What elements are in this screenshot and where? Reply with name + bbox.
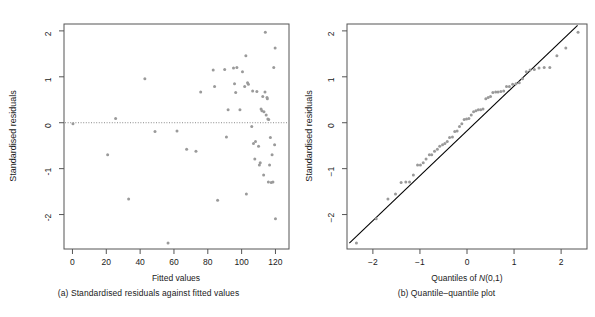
data-point <box>71 122 74 125</box>
y-tick-label: 2 <box>43 31 53 36</box>
data-point <box>254 140 257 143</box>
data-point <box>458 125 461 128</box>
data-point <box>251 90 254 93</box>
y-tick-label: 1 <box>43 77 53 82</box>
data-point <box>456 129 459 132</box>
data-point <box>247 83 250 86</box>
qq-reference-line <box>349 25 577 243</box>
data-point <box>497 90 500 93</box>
panel-b-caption: (b) Quantile–quantile plot <box>298 288 595 298</box>
data-point <box>233 82 236 85</box>
x-tick-label: −2 <box>368 257 378 267</box>
data-point <box>234 91 237 94</box>
data-point <box>386 197 389 200</box>
data-point <box>262 110 265 113</box>
data-point <box>543 66 546 69</box>
data-point <box>263 90 266 93</box>
data-point <box>154 130 157 133</box>
data-point <box>425 158 428 161</box>
data-point <box>502 90 505 93</box>
x-axis-title-prefix: Quantiles of <box>431 273 479 283</box>
data-point <box>264 31 267 34</box>
data-point <box>271 180 274 183</box>
data-point <box>467 117 470 120</box>
y-tick-label: -1 <box>43 168 53 176</box>
panel-a-caption: (a) Standardised residuals against fitte… <box>0 288 297 298</box>
data-point <box>482 107 485 110</box>
data-point <box>505 85 508 88</box>
data-point <box>443 142 446 145</box>
data-point <box>143 77 146 80</box>
data-point <box>419 163 422 166</box>
x-axis-ticks: −2−1012 <box>368 249 564 267</box>
data-point <box>446 140 449 143</box>
plot-frame <box>64 24 289 249</box>
data-point <box>272 66 275 69</box>
data-point <box>394 192 397 195</box>
data-point <box>422 161 425 164</box>
data-point <box>470 113 473 116</box>
data-point <box>555 54 558 57</box>
data-point <box>438 145 441 148</box>
data-point <box>499 90 502 93</box>
data-point <box>243 85 246 88</box>
data-point <box>212 68 215 71</box>
data-point <box>514 82 517 85</box>
data-point <box>185 148 188 151</box>
y-axis-ticks: 210-1-2 <box>43 31 64 221</box>
data-point <box>266 97 269 100</box>
data-point <box>127 197 130 200</box>
data-point <box>253 158 256 161</box>
x-axis-title: Fitted values <box>152 273 200 283</box>
x-tick-label: 2 <box>559 257 564 267</box>
scatter-points <box>71 31 277 245</box>
data-point <box>265 113 268 116</box>
data-point <box>489 95 492 98</box>
data-point <box>525 70 528 73</box>
scatter-points <box>355 31 580 245</box>
data-point <box>416 163 419 166</box>
data-point <box>511 83 514 86</box>
data-point <box>268 163 271 166</box>
data-point <box>114 117 117 120</box>
x-tick-label: 20 <box>102 257 112 267</box>
panel-b-quantile-quantile-plot: −2−1012 210−1−2 Quantiles of N(0,1) Stan… <box>298 0 595 317</box>
data-point <box>274 217 277 220</box>
y-tick-label: 0 <box>43 123 53 128</box>
data-point <box>521 77 524 80</box>
x-axis-title: Quantiles of N(0,1) <box>431 273 503 283</box>
data-point <box>460 122 463 125</box>
data-point <box>412 174 415 177</box>
figure-container: 020406080100120 210-1-2 Fitted values St… <box>0 0 595 317</box>
data-point <box>538 67 541 70</box>
data-point <box>408 180 411 183</box>
data-point <box>274 46 277 49</box>
data-point <box>269 136 272 139</box>
x-axis-ticks: 020406080100120 <box>70 249 283 267</box>
data-point <box>194 150 197 153</box>
y-axis-title: Standardised residuals <box>304 90 314 182</box>
panel-a-axes: 020406080100120 210-1-2 <box>43 24 289 267</box>
data-point <box>508 85 511 88</box>
x-tick-label: 100 <box>235 257 249 267</box>
data-point <box>448 136 451 139</box>
x-tick-label: 80 <box>203 257 213 267</box>
data-point <box>225 135 228 138</box>
data-point <box>273 143 276 146</box>
y-tick-label: 1 <box>326 77 336 82</box>
data-point <box>436 148 439 151</box>
data-point <box>533 68 536 71</box>
data-point <box>355 242 358 245</box>
panel-a-standardised-residuals-vs-fitted: 020406080100120 210-1-2 Fitted values St… <box>0 0 297 317</box>
data-point <box>216 199 219 202</box>
plot-frame <box>347 24 587 249</box>
data-point <box>267 118 270 121</box>
y-tick-label: −1 <box>326 167 336 177</box>
data-point <box>261 95 264 98</box>
data-point <box>250 125 253 128</box>
data-point <box>404 180 407 183</box>
data-point <box>245 192 248 195</box>
data-point <box>176 129 179 132</box>
data-point <box>227 108 230 111</box>
y-tick-label: 0 <box>326 123 336 128</box>
